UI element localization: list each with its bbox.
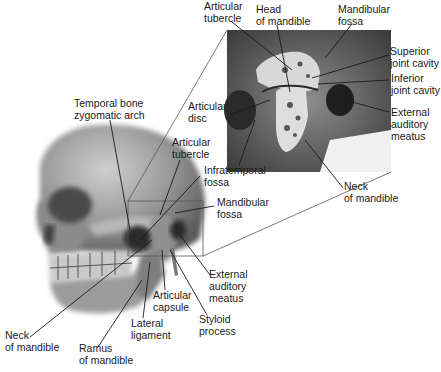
label-ramus-of-mandible: Ramus of mandible (79, 342, 133, 366)
label-external-auditory-meatus: External auditory meatus (209, 268, 248, 304)
inset-panel (224, 30, 391, 172)
label-inset-inferior-joint-cavity: Inferior joint cavity (391, 72, 440, 96)
label-neck-of-mandible: Neck of mandible (5, 329, 59, 353)
label-inset-articular-disc: Articular disc (188, 100, 227, 124)
label-inset-head-of-mandible: Head of mandible (256, 3, 310, 27)
label-inset-external-auditory-meatus: External auditory meatus (391, 106, 430, 142)
label-mandibular-fossa: Mandibular fossa (217, 196, 269, 220)
label-styloid-process: Styloid process (199, 313, 236, 337)
label-articular-tubercle: Articular tubercle (172, 136, 211, 160)
tmj-diagram: Articular tubercle Head of mandible Mand… (0, 0, 441, 372)
label-inset-neck-of-mandible: Neck of mandible (344, 180, 398, 204)
label-articular-capsule: Articular capsule (153, 289, 192, 313)
label-inset-superior-joint-cavity: Superior joint cavity (390, 45, 439, 69)
label-temporal-bone-zygomatic-arch: Temporal bone zygomatic arch (74, 97, 145, 121)
label-infratemporal-fossa: Infratemporal fossa (204, 164, 266, 188)
label-lateral-ligament: Lateral ligament (131, 317, 171, 341)
label-inset-mandibular-fossa: Mandibular fossa (338, 3, 390, 27)
label-inset-articular-tubercle: Articular tubercle (204, 0, 243, 24)
